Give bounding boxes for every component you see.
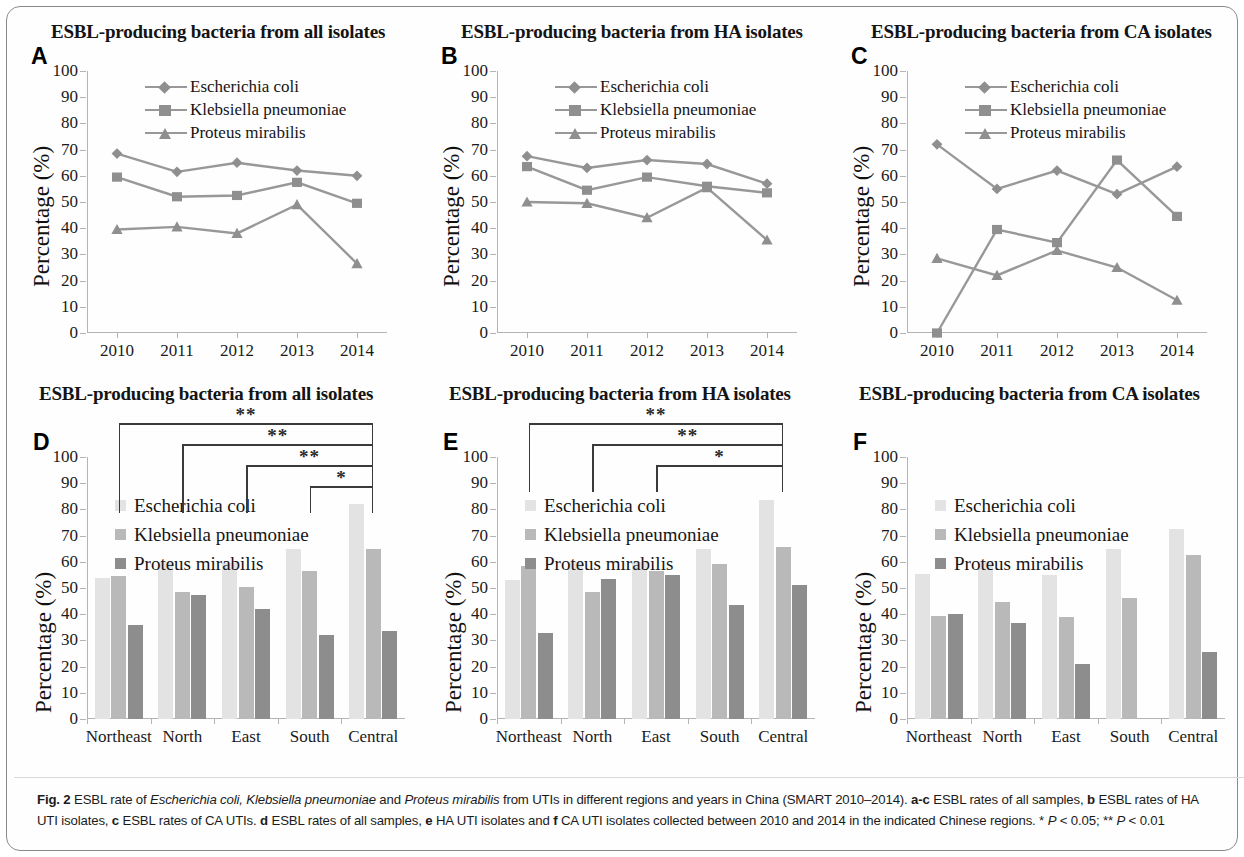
panel-f: ESBL-producing bacteria from CA isolates… [845,383,1244,777]
legend-item: Klebsiella pneumoniae [525,520,719,549]
bar-northeast-ecoli [505,580,520,719]
bar-south-kpneu [712,564,727,719]
y-axis-tick-label: 30 [471,630,497,650]
y-axis-tick-label: 100 [53,447,88,467]
bar-east-pmira [1075,664,1090,719]
bar-central-pmira [382,631,397,719]
y-axis-tick-label: 50 [471,578,497,598]
x-axis-tick-label: 2010 [510,341,544,361]
x-axis-tick-mark [278,719,279,724]
bar-north-kpneu [175,592,190,719]
y-axis-tick-label: 70 [471,526,497,546]
x-axis-tick-mark [1117,333,1118,338]
x-axis-tick-mark [527,333,528,338]
significance-label: ** [267,425,288,447]
legend-label: Escherichia coli [190,77,299,97]
x-axis-tick-label: Central [1168,727,1218,747]
x-axis-tick-mark [587,333,588,338]
y-axis-tick-label: 20 [61,271,87,291]
legend-item: Proteus mirabilis [935,549,1129,578]
x-axis-tick-label: 2012 [1040,341,1074,361]
x-axis-tick-mark [177,333,178,338]
y-axis-tick-label: 40 [471,218,497,238]
x-axis-tick-label: North [163,727,203,747]
legend-e: Escherichia coliKlebsiella pneumoniaePro… [525,491,719,578]
bar-east-kpneu [239,587,254,719]
y-axis-tick-label: 70 [61,140,87,160]
y-axis-line [87,457,88,719]
panel-b: BESBL-producing bacteria from HA isolate… [435,19,835,379]
bar-north-kpneu [995,602,1010,719]
x-axis-tick-mark [237,333,238,338]
panel-d: ESBL-producing bacteria from all isolate… [25,383,425,777]
bar-north-ecoli [158,562,173,719]
bar-north-ecoli [978,561,993,720]
y-axis-tick-label: 10 [471,683,497,703]
legend-label: Proteus mirabilis [600,123,716,143]
figure-frame: AESBL-producing bacteria from all isolat… [6,6,1238,851]
significance-label: * [336,467,347,489]
bar-northeast-kpneu [521,566,536,719]
panel-letter-b: B [441,43,458,70]
legend-label: Proteus mirabilis [544,553,673,575]
x-axis-tick-label: 2010 [100,341,134,361]
legend-label: Escherichia coli [954,495,1076,517]
significance-bracket: * [310,486,374,513]
y-axis-tick-label: 0 [70,709,88,729]
y-axis-tick-label: 10 [881,297,907,317]
bar-south-kpneu [302,571,317,719]
legend-label: Escherichia coli [544,495,666,517]
bar-northeast-ecoli [95,578,110,719]
y-axis-label: Percentage (%) [851,572,877,713]
bar-east-ecoli [222,563,237,719]
y-axis-tick-label: 20 [881,657,907,677]
x-axis-tick-mark [907,719,908,724]
legend-marker-square-icon [555,103,597,117]
y-axis-tick-label: 10 [61,683,87,703]
bar-east-ecoli [632,562,647,719]
legend-marker-diamond-icon [145,80,187,94]
y-axis-tick-label: 90 [61,87,87,107]
legend-marker-triangle-icon [965,126,1007,140]
bar-central-kpneu [1186,555,1201,719]
legend-item: Proteus mirabilis [115,549,309,578]
bar-north-ecoli [568,562,583,719]
legend-item: Klebsiella pneumoniae [145,98,346,121]
x-axis-tick-mark [688,719,689,724]
y-axis-tick-label: 20 [881,271,907,291]
significance-bracket: * [656,465,783,492]
y-axis-tick-label: 100 [53,61,88,81]
significance-label: * [714,446,725,468]
legend-label: Klebsiella pneumoniae [1010,100,1166,120]
y-axis-label: Percentage (%) [849,146,875,287]
legend-f: Escherichia coliKlebsiella pneumoniaePro… [935,491,1129,578]
significance-label: ** [645,404,666,426]
bar-south-pmira [319,635,334,719]
x-axis-tick-label: South [290,727,330,747]
panel-title-c: ESBL-producing bacteria from CA isolates [871,21,1212,43]
y-axis-tick-label: 90 [471,87,497,107]
x-axis-tick-label: 2014 [340,341,374,361]
x-axis-tick-mark [767,333,768,338]
bar-south-kpneu [1122,598,1137,719]
y-axis-tick-label: 70 [61,526,87,546]
legend-label: Proteus mirabilis [954,553,1083,575]
bar-central-kpneu [776,547,791,719]
y-axis-tick-label: 20 [61,657,87,677]
panel-a: AESBL-producing bacteria from all isolat… [25,19,425,379]
legend-marker-triangle-icon [555,126,597,140]
x-axis-tick-label: 2014 [750,341,784,361]
panel-title-b: ESBL-producing bacteria from HA isolates [461,21,803,43]
y-axis-tick-label: 60 [61,552,87,572]
y-axis-tick-label: 80 [881,499,907,519]
y-axis-tick-label: 90 [61,473,87,493]
x-axis-tick-mark [87,719,88,724]
y-axis-tick-label: 40 [881,218,907,238]
y-axis-tick-label: 30 [61,244,87,264]
panel-title-a: ESBL-producing bacteria from all isolate… [51,21,385,43]
legend-item: Proteus mirabilis [555,121,756,144]
y-axis-tick-label: 0 [480,709,498,729]
bar-north-kpneu [585,592,600,719]
y-axis-tick-label: 80 [471,499,497,519]
x-axis-tick-mark [497,719,498,724]
